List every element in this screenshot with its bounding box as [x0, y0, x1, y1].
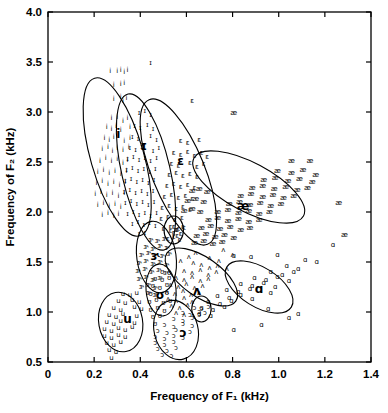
- data-point-glyph: ɪ: [134, 189, 137, 197]
- y-axis-label: Frequency of F₂ (kHz): [4, 127, 16, 246]
- data-point-glyph: ɛ: [186, 139, 190, 147]
- data-point-glyph: ɪ: [146, 121, 149, 129]
- data-point-glyph: ɑ: [222, 303, 226, 311]
- data-point-glyph: ɪ: [129, 144, 132, 152]
- data-point-glyph: i: [119, 181, 121, 189]
- data-point-glyph: u: [114, 348, 118, 356]
- y-tick-label: 2.0: [26, 206, 42, 218]
- data-point-glyph: ɝ: [157, 242, 163, 250]
- data-point-glyph: ʊ: [162, 307, 166, 315]
- data-point-glyph: ʌ: [182, 267, 186, 275]
- y-tick-label: 3.0: [26, 106, 42, 118]
- data-point-glyph: ɛ: [186, 148, 190, 156]
- data-point-glyph: ɪ: [134, 146, 137, 154]
- data-point-glyph: ɑ: [280, 271, 284, 279]
- series-ɑ: ɑɑɑɑɑɑɑɑɑɑɑɑɑɑɑɑɑɑɑɑɑɑɑɑɑɑɑɑɑɑɑɑɑɑɑɑɑɑɑɑ…: [197, 241, 335, 334]
- data-point-glyph: æ: [196, 185, 203, 193]
- x-tick-label: 0.8: [225, 368, 242, 380]
- y-tick-label: 3.5: [26, 56, 43, 68]
- data-point-glyph: æ: [257, 199, 264, 207]
- data-point-glyph: æ: [207, 222, 214, 230]
- data-point-glyph: i: [117, 192, 119, 200]
- data-point-glyph: ɪ: [131, 133, 134, 141]
- data-point-glyph: æ: [246, 224, 253, 232]
- data-point-glyph: ɔ: [197, 311, 201, 319]
- data-point-glyph: ɪ: [155, 154, 158, 162]
- data-point-glyph: u: [109, 354, 113, 362]
- data-point-glyph: ɑ: [291, 268, 295, 276]
- plot-area: iiiiiiiiiiiiiiiiiiiiiiiiiiiiiiiiiiiiiiii…: [69, 59, 348, 365]
- data-point-glyph: ɪ: [144, 107, 147, 115]
- data-point-glyph: i: [101, 211, 103, 219]
- data-point-glyph: i: [117, 210, 119, 218]
- data-point-glyph: ɪ: [126, 155, 129, 163]
- data-point-glyph: ɔ: [181, 309, 185, 317]
- data-point-glyph: u: [118, 338, 122, 346]
- y-tick-label: 1.5: [26, 256, 43, 268]
- data-point-glyph: ɪ: [149, 59, 152, 67]
- data-point-glyph: ɑ: [273, 283, 277, 291]
- vowel-formant-figure: 00.20.40.60.81.01.21.40.51.01.52.02.53.0…: [0, 0, 388, 413]
- data-point-glyph: ʌ: [206, 275, 210, 283]
- data-point-glyph: i: [102, 199, 104, 207]
- data-point-glyph: ɪ: [149, 132, 152, 140]
- data-point-glyph: ɪ: [131, 164, 134, 172]
- data-point-glyph: ɑ: [296, 310, 300, 318]
- data-point-glyph: ɑ: [287, 277, 291, 285]
- data-point-glyph: ɪ: [147, 201, 150, 209]
- data-point-glyph: ɛ: [179, 183, 183, 191]
- data-point-glyph: æ: [248, 190, 255, 198]
- x-axis-label: Frequency of F₁ (kHz): [150, 390, 269, 402]
- data-point-glyph: i: [113, 178, 115, 186]
- data-point-glyph: æ: [278, 200, 285, 208]
- data-point-glyph: æ: [189, 205, 196, 213]
- data-point-glyph: ʌ: [197, 289, 201, 297]
- data-point-glyph: ɔ: [188, 328, 192, 336]
- series-ɛ: ɛɛɛɛɛɛɛɛɛɛɛɛɛɛɛɛɛɛɛɛɛɛɛɛɛɛɛɛɛɛɛɛɛɛɛɛɛɛɛɛ…: [159, 97, 209, 244]
- data-point-glyph: ɑ: [250, 295, 254, 303]
- data-point-glyph: u: [135, 289, 139, 297]
- data-point-glyph: ɑ: [331, 241, 335, 249]
- data-point-glyph: ɔ: [163, 321, 167, 329]
- data-point-glyph: ɛ: [167, 202, 171, 210]
- data-point-glyph: ɛ: [190, 97, 194, 105]
- x-tick-label: 0.6: [178, 368, 194, 380]
- data-point-glyph: ɛ: [179, 137, 183, 145]
- data-point-glyph: ɪ: [138, 156, 141, 164]
- scatter-plot: 00.20.40.60.81.01.21.40.51.01.52.02.53.0…: [0, 0, 388, 413]
- data-point-glyph: i: [112, 147, 114, 155]
- data-point-glyph: æ: [200, 198, 207, 206]
- data-point-glyph: u: [123, 299, 127, 307]
- data-point-glyph: æ: [341, 231, 348, 239]
- data-point-glyph: ɑ: [285, 262, 289, 270]
- data-point-glyph: i: [107, 143, 109, 151]
- data-point-glyph: ɛ: [176, 194, 180, 202]
- data-point-glyph: i: [127, 66, 129, 74]
- y-tick-label: 4.0: [26, 6, 42, 18]
- data-point-glyph: i: [129, 123, 131, 131]
- data-point-glyph: i: [104, 134, 106, 142]
- data-point-glyph: ɝ: [139, 283, 145, 291]
- data-point-glyph: ɛ: [181, 172, 185, 180]
- data-point-glyph: i: [114, 200, 116, 208]
- data-point-glyph: æ: [306, 157, 313, 165]
- x-tick-label: 1.0: [271, 368, 287, 380]
- x-tick-label: 1.4: [363, 368, 380, 380]
- data-point-glyph: ɑ: [315, 258, 319, 266]
- data-point-glyph: æ: [270, 191, 277, 199]
- data-point-glyph: ɪ: [154, 222, 157, 230]
- data-point-glyph: æ: [181, 207, 188, 215]
- data-point-glyph: ɪ: [142, 165, 145, 173]
- data-point-glyph: u: [132, 303, 136, 311]
- data-point-glyph: ɑ: [268, 289, 272, 297]
- series-æ: ææææææææææææææææææææææææææææææææææææææææ…: [181, 109, 348, 248]
- data-point-glyph: ɛ: [159, 215, 163, 223]
- data-point-glyph: æ: [200, 237, 207, 245]
- data-point-glyph: ɛ: [205, 153, 209, 161]
- data-point-glyph: ɪ: [132, 153, 135, 161]
- data-point-glyph: ʌ: [221, 246, 225, 254]
- data-point-glyph: ɝ: [146, 249, 152, 257]
- data-point-glyph: æ: [227, 223, 234, 231]
- data-point-glyph: ɑ: [231, 252, 235, 260]
- data-point-glyph: i: [109, 67, 111, 75]
